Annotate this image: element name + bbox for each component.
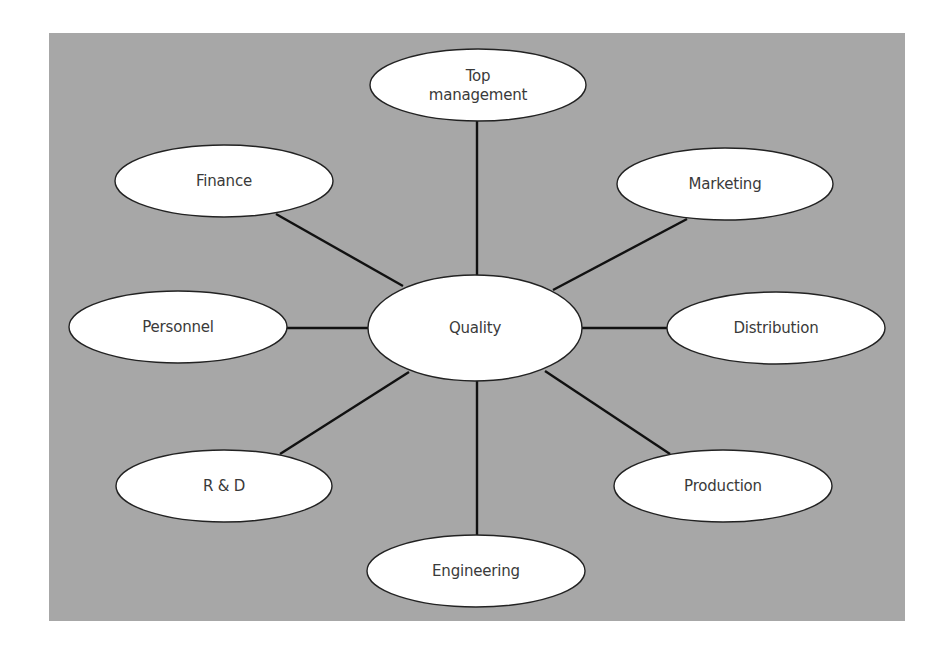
node-label-line2: management bbox=[429, 86, 527, 105]
node-label-text: Quality bbox=[449, 319, 501, 337]
node-label-engineering: Engineering bbox=[432, 562, 520, 581]
node-label-text: Distribution bbox=[733, 319, 818, 337]
connector-line-finance bbox=[276, 214, 403, 286]
node-label-text: Marketing bbox=[689, 175, 762, 193]
connector-line-marketing bbox=[553, 219, 687, 290]
node-label-production: Production bbox=[684, 477, 762, 496]
connector-line-production bbox=[545, 371, 670, 454]
node-label-text: Finance bbox=[196, 172, 252, 190]
node-label-finance: Finance bbox=[196, 172, 252, 191]
node-label-top-management: Top management bbox=[429, 67, 527, 105]
node-label-distribution: Distribution bbox=[733, 319, 818, 338]
node-label-text: Production bbox=[684, 477, 762, 495]
node-label-text: Engineering bbox=[432, 562, 520, 580]
node-label-line1: Top bbox=[429, 67, 527, 86]
node-label-quality: Quality bbox=[449, 319, 501, 338]
node-label-personnel: Personnel bbox=[142, 318, 214, 337]
connector-line-r-and-d bbox=[280, 372, 409, 454]
node-label-text: R & D bbox=[203, 477, 245, 495]
node-label-r-and-d: R & D bbox=[203, 477, 245, 496]
node-label-marketing: Marketing bbox=[689, 175, 762, 194]
node-label-text: Personnel bbox=[142, 318, 214, 336]
